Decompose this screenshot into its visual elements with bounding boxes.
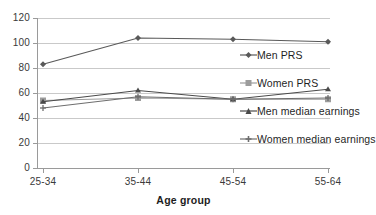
legend-label-men-prs: Men PRS [257,49,303,61]
legend-marker-square-icon [240,77,257,89]
x-tick-label-45-54: 45-54 [208,176,258,187]
legend-label-women-median-earnings: Women median earnings [257,133,376,145]
legend-item-men-prs[interactable]: Men PRS [240,49,303,61]
series-women-prs [40,95,331,104]
x-tick-label-35-44: 35-44 [113,176,163,187]
legend-label-women-prs: Women PRS [257,77,318,89]
legend-item-women-prs[interactable]: Women PRS [240,77,318,89]
legend-marker-cross-icon [240,133,257,145]
legend-marker-triangle-icon [240,105,257,117]
legend-item-men-median-earnings[interactable]: Men median earnings [240,105,360,117]
x-tick-label-25-34: 25-34 [18,176,68,187]
legend-item-women-median-earnings[interactable]: Women median earnings [240,133,376,145]
legend-label-men-median-earnings: Men median earnings [257,105,360,117]
legend-marker-diamond-icon [240,49,257,61]
x-tick-label-55-64: 55-64 [303,176,353,187]
x-axis-title: Age group [37,194,330,206]
